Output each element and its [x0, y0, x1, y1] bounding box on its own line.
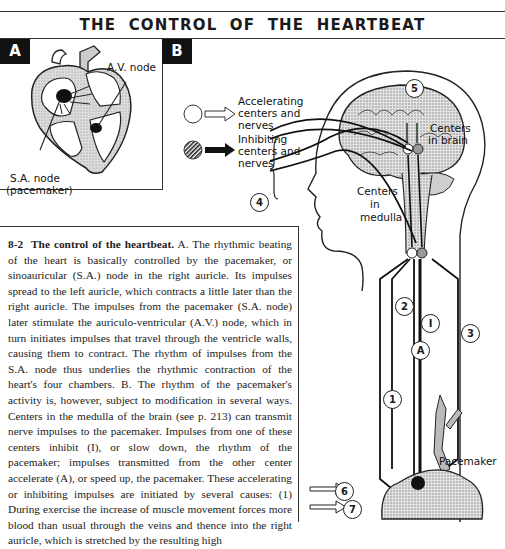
legend-accelerating-line3: nerves — [238, 119, 274, 131]
figure-title: THE CONTROL OF THE HEARTBEAT — [80, 16, 426, 34]
inhibiting-legend-icon — [183, 139, 243, 161]
marker-4: 4 — [250, 193, 269, 212]
marker-1: 1 — [383, 390, 402, 409]
pacemaker-label: Pacemaker — [439, 455, 497, 467]
caption-heading: The control of the heartbeat. — [31, 238, 174, 250]
caption-number: 8-2 — [8, 238, 23, 250]
sa-node-note: (pacemaker) — [6, 184, 73, 196]
av-node-label: A.V. node — [107, 61, 156, 73]
legend-inhibiting-line3: nerves — [238, 157, 274, 169]
sa-node-label: S.A. node — [10, 172, 60, 184]
centers-in-medulla-label-1: Centers — [357, 185, 398, 197]
figure-title-bar: THE CONTROL OF THE HEARTBEAT — [0, 11, 505, 39]
centers-in-brain-label-2: in brain — [428, 134, 468, 146]
marker-7: 7 — [343, 500, 362, 519]
marker-inhibit: I — [421, 314, 440, 333]
caption-body: A. The rhythmic beating of the heart is … — [8, 238, 292, 546]
marker-accelerate: A — [411, 341, 430, 360]
marker-2: 2 — [395, 297, 414, 316]
panel-b-tag: B — [162, 39, 192, 64]
accelerating-legend-icon — [183, 103, 243, 125]
centers-in-brain-label-1: Centers — [430, 122, 471, 134]
centers-in-medulla-label-3: medulla — [360, 211, 402, 223]
marker-3: 3 — [461, 324, 480, 343]
figure-caption: 8-2The control of the heartbeat. A. The … — [0, 226, 299, 522]
marker-6: 6 — [335, 482, 354, 501]
centers-in-medulla-label-2: in — [370, 198, 380, 210]
marker-5: 5 — [405, 79, 424, 98]
